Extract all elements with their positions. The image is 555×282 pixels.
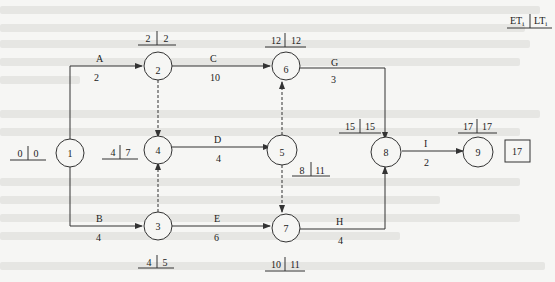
- svg-text:1: 1: [68, 148, 73, 159]
- svg-text:2: 2: [156, 65, 161, 76]
- node-7: 7: [272, 214, 300, 242]
- svg-text:10: 10: [271, 259, 281, 270]
- node-3-times: 4 5: [138, 255, 174, 268]
- node-8-times: 15 15: [339, 119, 381, 133]
- svg-text:6: 6: [284, 64, 289, 75]
- svg-text:4: 4: [338, 235, 343, 246]
- svg-text:4: 4: [147, 257, 152, 268]
- legend-et-label: ETi: [510, 15, 524, 28]
- svg-text:3: 3: [331, 74, 336, 85]
- legend-et-lt: ETi LTi: [507, 14, 552, 28]
- svg-text:B: B: [96, 213, 103, 224]
- svg-text:17: 17: [482, 121, 492, 132]
- svg-text:7: 7: [126, 147, 131, 158]
- svg-text:0: 0: [18, 148, 23, 159]
- node-4: 4: [144, 136, 172, 164]
- svg-text:11: 11: [315, 165, 325, 176]
- svg-text:4: 4: [111, 147, 116, 158]
- svg-text:4: 4: [96, 232, 101, 243]
- svg-text:8: 8: [384, 147, 389, 158]
- activity-i: I 2: [402, 138, 463, 168]
- svg-text:5: 5: [163, 257, 168, 268]
- svg-text:17: 17: [463, 121, 473, 132]
- node-5: 5: [267, 135, 297, 165]
- svg-text:15: 15: [345, 121, 355, 132]
- svg-text:2: 2: [164, 33, 169, 44]
- svg-text:15: 15: [365, 121, 375, 132]
- total-duration-box: 17: [505, 140, 530, 162]
- svg-text:C: C: [210, 53, 217, 64]
- node-9: 9: [463, 137, 493, 167]
- activity-h: H 4: [300, 167, 385, 246]
- svg-text:8: 8: [300, 165, 305, 176]
- svg-text:7: 7: [284, 223, 289, 234]
- svg-text:11: 11: [290, 259, 300, 270]
- node-5-times: 8 11: [292, 162, 330, 176]
- node-8: 8: [371, 137, 401, 167]
- node-4-times: 4 7: [102, 145, 138, 159]
- svg-text:12: 12: [291, 35, 301, 46]
- svg-text:6: 6: [214, 232, 219, 243]
- svg-text:2: 2: [424, 157, 429, 168]
- svg-text:2: 2: [146, 33, 151, 44]
- svg-text:4: 4: [216, 153, 221, 164]
- svg-text:E: E: [214, 213, 220, 224]
- node-2-times: 2 2: [138, 31, 176, 45]
- node-1-times: 0 0: [10, 146, 46, 160]
- activity-d: D 4: [172, 134, 270, 164]
- activity-b: B 4: [70, 167, 142, 243]
- node-7-times: 10 11: [265, 257, 305, 271]
- svg-text:G: G: [331, 57, 338, 68]
- svg-text:9: 9: [476, 147, 481, 158]
- svg-text:H: H: [336, 216, 343, 227]
- node-9-times: 17 17: [458, 119, 497, 133]
- svg-text:2: 2: [94, 72, 99, 83]
- node-6: 6: [272, 52, 300, 80]
- svg-text:3: 3: [156, 221, 161, 232]
- svg-text:5: 5: [280, 147, 285, 158]
- svg-text:10: 10: [210, 72, 220, 83]
- svg-text:0: 0: [34, 148, 39, 159]
- svg-text:I: I: [424, 138, 427, 149]
- node-6-times: 12 12: [265, 33, 306, 47]
- svg-text:17: 17: [512, 146, 522, 157]
- activity-e: E 6: [172, 213, 270, 243]
- svg-text:4: 4: [156, 145, 161, 156]
- node-1: 1: [56, 139, 84, 167]
- svg-text:D: D: [214, 134, 221, 145]
- activity-a: A 2: [70, 53, 142, 139]
- svg-text:A: A: [96, 53, 104, 64]
- node-3: 3: [144, 212, 172, 240]
- svg-text:12: 12: [271, 35, 281, 46]
- node-2: 2: [144, 52, 172, 80]
- legend-lt-label: LTi: [534, 15, 547, 28]
- activity-c: C 10: [172, 53, 270, 83]
